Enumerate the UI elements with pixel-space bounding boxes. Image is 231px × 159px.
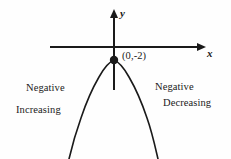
right-branch-label-line1: Negative — [155, 81, 194, 92]
vertex-point — [110, 56, 118, 64]
parabola-figure: y x (0,-2) Negative Increasing Negative … — [0, 0, 231, 159]
left-branch-label-line2: Increasing — [16, 104, 61, 115]
x-axis-arrowhead — [197, 43, 206, 51]
vertex-coordinate-label: (0,-2) — [122, 50, 146, 61]
x-axis-label: x — [207, 47, 213, 59]
right-branch-label-line2: Decreasing — [163, 97, 211, 108]
figure-canvas — [0, 0, 231, 159]
left-branch-label-line1: Negative — [26, 82, 65, 93]
y-axis-label: y — [120, 7, 125, 19]
y-axis-arrowhead — [110, 9, 118, 18]
